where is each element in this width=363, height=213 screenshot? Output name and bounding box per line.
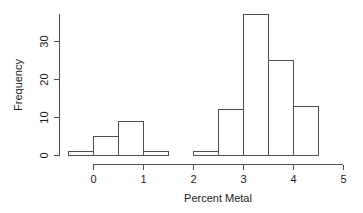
- x-axis-title: Percent Metal: [184, 192, 252, 204]
- histogram-bar: [244, 15, 269, 156]
- histogram-bar: [294, 107, 319, 156]
- x-axis-tick-label: 1: [140, 173, 146, 185]
- x-axis-ticks: 012345: [90, 165, 346, 186]
- x-axis-tick-label: 2: [190, 173, 196, 185]
- x-axis-tick-label: 3: [240, 173, 246, 185]
- histogram-bar: [219, 110, 244, 156]
- histogram-bar: [269, 61, 294, 156]
- x-axis-tick-label: 4: [290, 173, 296, 185]
- y-axis-tick-label: 10: [38, 111, 50, 123]
- y-axis-tick-label: 30: [38, 35, 50, 47]
- y-axis-tick-label: 0: [38, 152, 50, 158]
- histogram-bar: [119, 122, 144, 156]
- y-axis-tick-label: 20: [38, 73, 50, 85]
- histogram-chart: 0102030 012345 Percent Metal Frequency: [0, 0, 363, 213]
- y-axis-ticks: 0102030: [38, 35, 60, 158]
- x-axis-tick-label: 5: [340, 173, 346, 185]
- y-axis-title: Frequency: [12, 59, 24, 111]
- x-axis-tick-label: 0: [90, 173, 96, 185]
- histogram-bar: [194, 152, 219, 156]
- histogram-bar: [94, 137, 119, 156]
- bars-group: [69, 15, 319, 156]
- histogram-plot-area: 0102030 012345 Percent Metal Frequency: [0, 0, 363, 213]
- histogram-bar: [144, 152, 169, 156]
- histogram-bar: [69, 152, 94, 156]
